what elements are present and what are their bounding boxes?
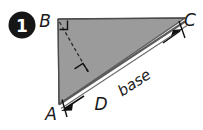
figure-number-text: 1 bbox=[16, 16, 28, 36]
figure-canvas: 1 B C A D base bbox=[0, 0, 203, 130]
vertex-label-a: A bbox=[44, 104, 57, 124]
vertex-label-c: C bbox=[184, 10, 196, 30]
point-label-d: D bbox=[94, 94, 107, 114]
geometry-figure: 1 B C A D base bbox=[0, 0, 203, 130]
vertex-label-b: B bbox=[39, 11, 51, 31]
